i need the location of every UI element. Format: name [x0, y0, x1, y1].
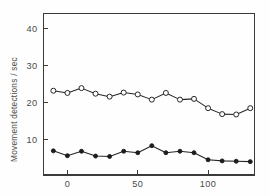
data-point-filled-circles-50: [136, 151, 140, 155]
y-tick-label-20: 20: [26, 98, 37, 108]
data-point-filled-circles-80: [178, 149, 182, 153]
data-point-filled-circles-10: [79, 149, 83, 153]
data-point-open-circles-70: [163, 90, 168, 95]
data-point-open-circles-90: [192, 96, 197, 101]
data-point-filled-circles-60: [150, 144, 154, 148]
data-point-filled-circles--10: [51, 149, 55, 153]
plot-frame: [44, 14, 255, 176]
y-tick-label-40: 40: [26, 24, 37, 34]
data-point-open-circles-50: [135, 92, 140, 97]
data-point-open-circles-120: [234, 112, 239, 117]
data-point-open-circles-20: [93, 91, 98, 96]
data-point-open-circles-60: [149, 97, 154, 102]
data-point-open-circles-80: [177, 97, 182, 102]
data-point-filled-circles-70: [164, 151, 168, 155]
data-point-filled-circles-0: [65, 154, 69, 158]
y-tick-label-10: 10: [26, 135, 37, 145]
data-point-open-circles-100: [206, 106, 211, 111]
data-point-open-circles-30: [107, 94, 112, 99]
data-point-filled-circles-120: [234, 159, 238, 163]
data-point-filled-circles-30: [108, 154, 112, 158]
y-tick-label-30: 30: [26, 61, 37, 71]
x-axis-ticks: [67, 170, 208, 175]
figure-container: 10203040 050100 Movement detections / se…: [0, 0, 270, 196]
x-tick-label-50: 50: [132, 179, 143, 189]
data-point-open-circles--10: [51, 88, 56, 93]
data-point-filled-circles-100: [206, 158, 210, 162]
chart-canvas: 10203040 050100 Movement detections / se…: [0, 0, 270, 196]
series-markers: [51, 86, 253, 164]
data-point-filled-circles-110: [220, 159, 224, 163]
data-point-open-circles-40: [121, 90, 126, 95]
x-tick-label-100: 100: [200, 179, 217, 189]
data-point-filled-circles-130: [248, 160, 252, 164]
data-point-open-circles-110: [220, 112, 225, 117]
plot-border: [44, 14, 255, 176]
x-tick-label-0: 0: [65, 179, 71, 189]
y-axis-title-group: Movement detections / sec: [9, 57, 19, 162]
data-point-filled-circles-20: [94, 154, 98, 158]
data-point-filled-circles-90: [192, 151, 196, 155]
data-point-filled-circles-40: [122, 149, 126, 153]
data-point-open-circles-0: [65, 90, 70, 95]
data-point-open-circles-10: [79, 86, 84, 91]
y-axis-title: Movement detections / sec: [9, 57, 19, 162]
y-axis-ticks: [44, 28, 49, 139]
x-axis-tick-labels: 050100: [65, 179, 217, 189]
y-axis-tick-labels: 10203040: [26, 24, 37, 145]
data-point-open-circles-130: [248, 106, 253, 111]
